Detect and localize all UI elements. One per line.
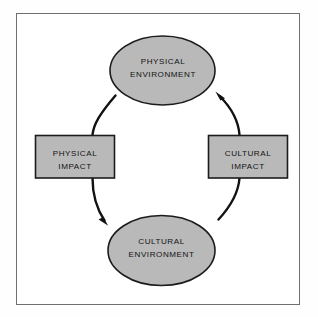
arrowhead-into-cultural-environment — [99, 217, 109, 226]
node-cultural-impact[interactable] — [209, 136, 288, 179]
node-cultural-environment[interactable] — [108, 216, 215, 286]
arrow-segment-upper-right — [220, 97, 240, 136]
arrow-segment-upper-left — [93, 96, 116, 136]
diagram-canvas: PHYSICAL ENVIRONMENT CULTURAL ENVIRONMEN… — [0, 0, 318, 317]
arrow-segment-lower-left — [93, 178, 105, 221]
diagram-shapes-layer — [0, 0, 318, 317]
node-physical-impact[interactable] — [36, 136, 115, 179]
arrow-segment-lower-right — [219, 178, 240, 220]
node-physical-environment[interactable] — [110, 36, 215, 105]
